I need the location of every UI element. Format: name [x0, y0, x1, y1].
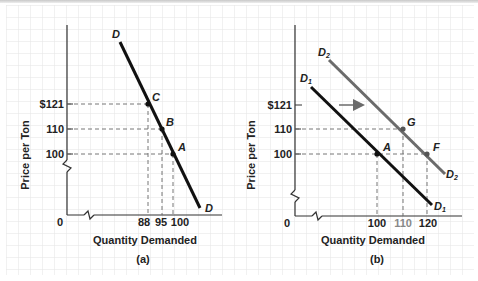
- x-tick-label-highlight: 110: [394, 217, 412, 229]
- x-tick-label: 120: [419, 217, 437, 229]
- point-a: [374, 151, 379, 156]
- point-b: [159, 126, 164, 131]
- y-axis-title: Price per Ton: [245, 120, 257, 190]
- y-tick-label: 110: [46, 123, 64, 135]
- curve-label-top: D: [112, 28, 120, 40]
- x-tick-label: 88: [138, 216, 150, 228]
- y-axis-title: Price per Ton: [19, 120, 31, 190]
- y-tick-label: 110: [274, 123, 292, 135]
- curve-label-bottom: D: [205, 202, 213, 214]
- panel-caption: (a): [136, 253, 150, 265]
- point-f: [424, 151, 429, 156]
- point-g: [400, 126, 405, 131]
- point-label-f: F: [433, 141, 440, 153]
- point-label-c: C: [152, 91, 161, 103]
- x-axis-title: Quantity Demanded: [93, 234, 197, 246]
- point-c: [145, 101, 150, 106]
- x-tick-label: 100: [368, 217, 386, 229]
- panel-caption: (b): [370, 253, 384, 265]
- y-tick-label: 100: [274, 148, 292, 160]
- point-a: [170, 151, 175, 156]
- x-axis-title: Quantity Demanded: [321, 234, 425, 246]
- chart-canvas: Price per Ton: [0, 0, 478, 281]
- point-label-a: A: [177, 141, 186, 153]
- x-tick-label: 95: [155, 216, 167, 228]
- y-tick-label: $121: [268, 99, 292, 111]
- point-label-g: G: [407, 116, 416, 128]
- origin-label: 0: [284, 217, 290, 229]
- demand-figure: Price per Ton: [0, 0, 478, 281]
- y-tick-label: 100: [46, 148, 64, 160]
- point-label-a: A: [382, 141, 391, 153]
- y-tick-label: $121: [40, 98, 64, 110]
- point-label-b: B: [166, 116, 174, 128]
- x-tick-label: 100: [171, 216, 189, 228]
- origin-label: 0: [57, 216, 63, 228]
